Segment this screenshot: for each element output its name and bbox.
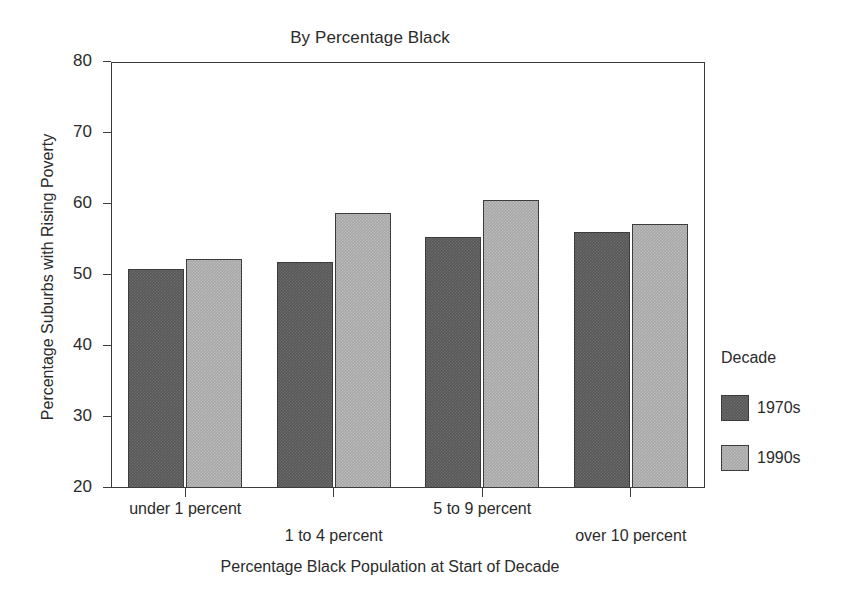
bar-1970s-over-10-percent xyxy=(574,232,630,488)
bar-1970s-1-to-4-percent xyxy=(277,262,333,488)
y-axis-tick-label: 40 xyxy=(32,335,92,355)
legend-swatch-1990s xyxy=(721,445,749,471)
y-axis-tick xyxy=(103,345,111,346)
bar-1990s-1-to-4-percent xyxy=(335,213,391,488)
y-axis-tick-label: 60 xyxy=(32,193,92,213)
x-axis-tick xyxy=(333,488,334,497)
y-axis-tick-label: 70 xyxy=(32,122,92,142)
bar-chart: By Percentage Black Percentage Suburbs w… xyxy=(0,0,849,590)
y-axis-tick xyxy=(103,416,111,417)
x-axis-tick xyxy=(185,488,186,497)
y-axis-tick xyxy=(103,487,111,488)
x-axis-tick-label: under 1 percent xyxy=(129,500,241,518)
y-axis-tick xyxy=(103,61,111,62)
x-axis-tick-label: over 10 percent xyxy=(575,527,686,545)
legend: Decade 1970s1990s xyxy=(721,349,845,495)
x-axis-title: Percentage Black Population at Start of … xyxy=(60,558,720,576)
bar-1970s-5-to-9-percent xyxy=(425,237,481,488)
legend-item-1990s: 1990s xyxy=(721,445,845,471)
y-axis-tick xyxy=(103,132,111,133)
x-axis-tick-label: 5 to 9 percent xyxy=(433,500,531,518)
x-axis-tick xyxy=(630,488,631,497)
y-axis-tick xyxy=(103,274,111,275)
bar-1990s-under-1-percent xyxy=(186,259,242,488)
legend-title: Decade xyxy=(721,349,845,367)
chart-title: By Percentage Black xyxy=(0,28,740,48)
legend-item-1970s: 1970s xyxy=(721,395,845,421)
bar-1970s-under-1-percent xyxy=(128,269,184,488)
y-axis-tick-label: 30 xyxy=(32,406,92,426)
legend-label-1990s: 1990s xyxy=(757,449,801,467)
x-axis-tick xyxy=(482,488,483,497)
y-axis-tick-label: 80 xyxy=(32,51,92,71)
y-axis-tick-label: 20 xyxy=(32,477,92,497)
legend-label-1970s: 1970s xyxy=(757,399,801,417)
bar-1990s-5-to-9-percent xyxy=(483,200,539,488)
legend-swatch-1970s xyxy=(721,395,749,421)
x-axis-tick-label: 1 to 4 percent xyxy=(285,527,383,545)
y-axis-tick-label: 50 xyxy=(32,264,92,284)
y-axis-tick xyxy=(103,203,111,204)
bar-1990s-over-10-percent xyxy=(632,224,688,488)
